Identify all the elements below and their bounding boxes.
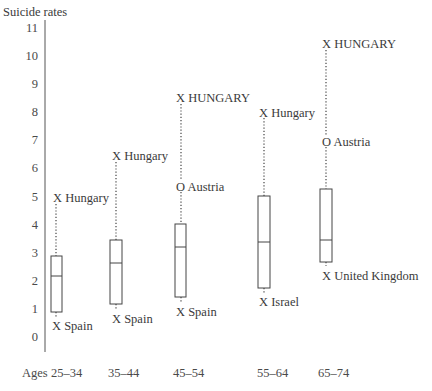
outlier-label: X HUNGARY	[176, 91, 250, 105]
box-65-74	[320, 50, 332, 266]
y-tick: 10	[26, 49, 39, 63]
y-tick: 6	[32, 161, 38, 175]
outlier-label: O Austria	[322, 135, 371, 149]
y-ticks: 0 1 2 3 4 5 6 7 8 9 10 11	[26, 21, 39, 344]
outlier-label: X Spain	[52, 319, 93, 333]
boxplot-chart: Suicide rates 0 1 2 3 4 5 6 7 8 9 10 11 …	[0, 0, 432, 391]
x-tick: 45–54	[173, 366, 205, 380]
outlier-label: O Austria	[176, 180, 225, 194]
box-55-64	[258, 118, 270, 293]
outlier-label: X Spain	[176, 305, 217, 319]
x-tick: 65–74	[318, 366, 350, 380]
box-35-44	[110, 162, 122, 309]
y-tick: 1	[32, 302, 38, 316]
x-tick: 55–64	[257, 366, 289, 380]
y-tick: 7	[32, 133, 38, 147]
x-axis-title: Ages	[22, 366, 48, 380]
box-25-34	[51, 204, 62, 318]
x-tick: 25–34	[51, 366, 83, 380]
y-tick: 4	[32, 218, 39, 232]
y-axis-title: Suicide rates	[3, 5, 67, 19]
box-45-54	[175, 104, 186, 302]
outlier-label: X Hungary	[259, 106, 316, 120]
outlier-label: X Israel	[259, 295, 299, 309]
outlier-label: X Hungary	[53, 191, 110, 205]
outlier-label: X HUNGARY	[322, 37, 396, 51]
outlier-label: X Spain	[112, 312, 153, 326]
x-axis-labels: Ages 25–34 35–44 45–54 55–64 65–74	[22, 366, 350, 380]
y-tick: 8	[32, 105, 38, 119]
y-tick: 11	[26, 21, 38, 35]
y-tick: 2	[32, 274, 38, 288]
y-tick: 9	[32, 77, 38, 91]
outlier-label: X Hungary	[112, 149, 169, 163]
x-tick: 35–44	[108, 366, 140, 380]
outlier-label: X United Kingdom	[322, 269, 419, 283]
y-tick: 5	[32, 190, 38, 204]
y-tick: 0	[32, 330, 38, 344]
y-tick: 3	[32, 246, 38, 260]
